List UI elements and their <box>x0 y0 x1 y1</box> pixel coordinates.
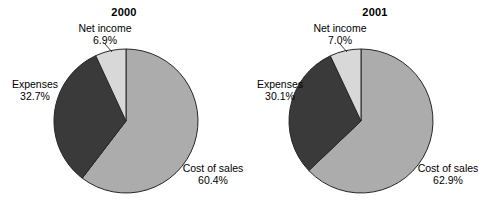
pie-label-expenses-name-2000: Expenses <box>4 79 66 91</box>
pie-label-cost-of-sales-name-2001: Cost of sales <box>415 163 481 175</box>
pie-label-expenses-name-2001: Expenses <box>249 79 311 91</box>
pie-label-expenses-value-2000: 32.7% <box>4 91 66 103</box>
pie-label-net-income-value-2000: 6.9% <box>62 35 148 47</box>
pie-label-expenses-value-2001: 30.1% <box>249 91 311 103</box>
chart-panel-2001: 2001 Net income 7.0% Expenses 30.1% Cost… <box>249 0 497 210</box>
pie-chart-figure: 2000 Net income 6.9% Expenses 32.7% Cost… <box>0 0 497 210</box>
pie-label-net-income-value-2001: 7.0% <box>297 35 383 47</box>
pie-label-cost-of-sales-name-2000: Cost of sales <box>180 163 246 175</box>
pie-label-net-income-2000: Net income 6.9% <box>62 23 148 46</box>
pie-label-expenses-2000: Expenses 32.7% <box>4 79 66 102</box>
pie-label-cost-of-sales-2000: Cost of sales 60.4% <box>180 163 246 186</box>
pie-label-cost-of-sales-value-2001: 62.9% <box>415 175 481 187</box>
pie-label-cost-of-sales-value-2000: 60.4% <box>180 175 246 187</box>
chart-panel-2000: 2000 Net income 6.9% Expenses 32.7% Cost… <box>0 0 248 210</box>
pie-label-net-income-2001: Net income 7.0% <box>297 23 383 46</box>
pie-label-expenses-2001: Expenses 30.1% <box>249 79 311 102</box>
pie-label-net-income-name-2001: Net income <box>297 23 383 35</box>
pie-label-cost-of-sales-2001: Cost of sales 62.9% <box>415 163 481 186</box>
pie-label-net-income-name-2000: Net income <box>62 23 148 35</box>
